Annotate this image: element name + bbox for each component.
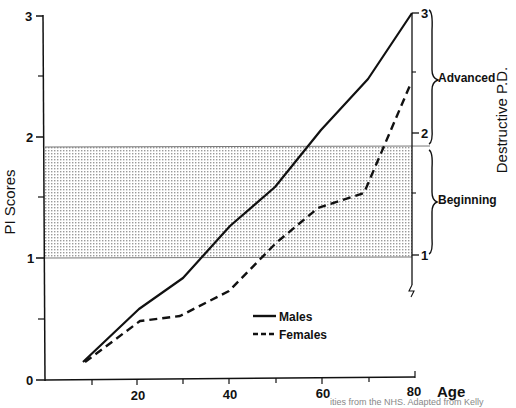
legend-females-label: Females xyxy=(279,328,327,342)
legend: Males Females xyxy=(253,310,327,342)
advanced-label: Advanced xyxy=(438,71,495,85)
band-top-line xyxy=(45,146,430,147)
figure-caption: ities from the NHS. Adapted from Kelly xyxy=(330,397,516,408)
beginning-label: Beginning xyxy=(438,193,497,207)
beginning-brace xyxy=(429,150,437,254)
y-tick-label: 0 xyxy=(26,373,33,388)
y-axis-right: 3 2 1 xyxy=(409,6,428,297)
legend-males-label: Males xyxy=(279,310,313,324)
right-tick-label: 1 xyxy=(421,248,428,263)
y-tick-label: 3 xyxy=(25,9,32,24)
right-tick-label: 2 xyxy=(421,126,428,141)
right-axis-title: Destructive P.D. xyxy=(493,67,510,173)
y-axis-left: 0 1 2 3 xyxy=(25,9,45,388)
right-tick-label: 3 xyxy=(421,6,428,21)
y-tick-label: 2 xyxy=(26,130,33,145)
y-tick-label: 1 xyxy=(27,251,34,266)
beginning-shaded-band xyxy=(45,147,412,258)
x-tick-label: 60 xyxy=(316,386,330,401)
y-axis-title: PI Scores xyxy=(1,169,18,234)
pi-scores-chart: 0 1 2 3 PI Scores 20 40 60 80 Age 3 2 1 … xyxy=(0,0,516,408)
advanced-brace xyxy=(429,10,438,144)
x-tick-label: 20 xyxy=(131,388,145,403)
x-tick-label: 40 xyxy=(223,387,237,402)
